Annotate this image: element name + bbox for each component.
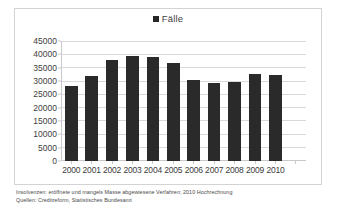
bar-slot [286,41,306,161]
bar-series [61,41,306,161]
y-axis-tick-label: 10000 [33,130,57,139]
bar-slot [61,41,81,161]
bar [269,75,282,161]
y-axis-tick-mark [58,80,61,81]
x-axis-tick-mark [112,161,113,164]
bar [249,74,262,161]
y-axis-tick-mark [58,54,61,55]
x-axis-tick-mark [295,161,296,164]
x-axis-tick-label: 2007 [204,166,224,175]
x-axis-tick-mark [132,161,133,164]
x-axis-tick-mark [152,161,153,164]
bar-slot [224,41,244,161]
bar-slot [81,41,101,161]
bar-slot [102,41,122,161]
x-axis-labels: 2000200120022003200420052006200720082009… [61,166,306,175]
bar [147,57,160,161]
legend-label: Fälle [162,14,184,24]
x-axis-tick-label: 2010 [265,166,285,175]
y-axis-tick-label: 35000 [33,63,57,72]
bar-slot [163,41,183,161]
x-axis-tick-mark [255,161,256,164]
y-axis-tick-mark [58,41,61,42]
x-axis-tick-label: 2005 [163,166,183,175]
x-axis-tick-mark [71,161,72,164]
chart-frame: Fälle 4500040000350003000025000200001500… [14,8,322,185]
chart-screenshot: Fälle 4500040000350003000025000200001500… [0,0,341,210]
plot-area: 4500040000350003000025000200001500010000… [61,41,306,161]
bar [208,83,221,161]
footnote-line-1: Insolvenzen: eröffnete und mangels Masse… [16,189,326,197]
bar [85,76,98,161]
bar [106,60,119,161]
y-axis-tick-label: 0 [52,157,57,166]
bar-slot [122,41,142,161]
chart-footnote: Insolvenzen: eröffnete und mangels Masse… [16,189,326,205]
y-axis-tick-mark [58,107,61,108]
y-axis-tick-label: 40000 [33,50,57,59]
x-axis-tick-mark [275,161,276,164]
x-axis-tick-mark [234,161,235,164]
x-axis-tick-label: 2009 [245,166,265,175]
y-axis-tick-label: 25000 [33,90,57,99]
x-axis-tick-label: 2000 [61,166,81,175]
y-axis-tick-label: 20000 [33,103,57,112]
bar [167,63,180,161]
y-axis-tick-mark [58,120,61,121]
bar [65,86,78,161]
bar-slot [143,41,163,161]
bar [187,80,200,161]
footnote-line-2: Quellen: Creditreform, Statistisches Bun… [16,197,326,205]
y-axis-tick-label: 30000 [33,77,57,86]
bar-slot [265,41,285,161]
bar [126,56,139,161]
chart-legend: Fälle [15,14,321,24]
bar-slot [245,41,265,161]
x-axis-tick [286,161,306,165]
y-axis-tick-mark [58,94,61,95]
x-axis-tick-label: 2001 [81,166,101,175]
y-axis-tick-mark [58,134,61,135]
y-axis-tick-mark [58,67,61,68]
y-axis-tick-label: 5000 [38,143,57,152]
y-axis-tick-mark [58,147,61,148]
x-axis-tick-mark [193,161,194,164]
x-axis-tick-label [286,166,306,175]
x-axis-tick-label: 2003 [122,166,142,175]
square-marker-icon [153,16,159,22]
x-axis-tick-label: 2008 [224,166,244,175]
bar [228,82,241,161]
y-axis-tick-label: 15000 [33,117,57,126]
y-axis-tick-label: 45000 [33,37,57,46]
bar-slot [204,41,224,161]
x-axis-tick-mark [91,161,92,164]
x-axis-tick-mark [214,161,215,164]
x-axis-tick-label: 2004 [143,166,163,175]
x-axis-tick-label: 2006 [184,166,204,175]
x-axis-tick-label: 2002 [102,166,122,175]
bar-slot [184,41,204,161]
x-axis-tick-mark [173,161,174,164]
